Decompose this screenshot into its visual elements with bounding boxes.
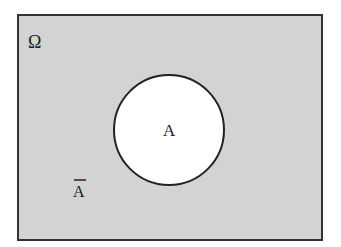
complement-label: A xyxy=(73,183,85,200)
universe-label: Ω xyxy=(28,32,41,52)
venn-diagram: Ω A A xyxy=(0,0,341,247)
set-a-label: A xyxy=(163,121,176,140)
